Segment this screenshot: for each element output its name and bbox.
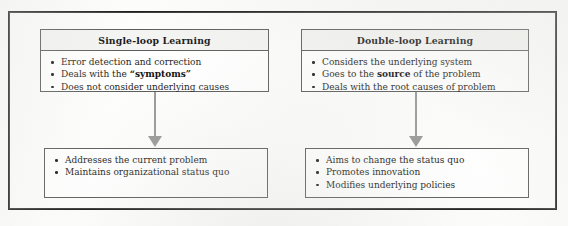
bullet-text: Promotes innovation bbox=[326, 167, 420, 177]
bullet-text-tail: of the problem bbox=[410, 69, 480, 79]
list-item: Error detection and correction bbox=[50, 56, 268, 68]
list-item: Maintains organizational status quo bbox=[54, 166, 267, 178]
list-item: Promotes innovation bbox=[315, 166, 528, 178]
list-item: Considers the underlying system bbox=[311, 56, 528, 68]
bullet-text: Addresses the current problem bbox=[65, 155, 207, 165]
list-item: Addresses the current problem bbox=[54, 154, 267, 166]
bullet-text: Considers the underlying system bbox=[322, 57, 472, 67]
bullet-text: Goes to the bbox=[322, 69, 377, 79]
single-loop-characteristics-list: Error detection and correction Deals wit… bbox=[50, 56, 268, 93]
list-item: Aims to change the status quo bbox=[315, 154, 528, 166]
double-loop-learning-card: Double-loop Learning Considers the under… bbox=[301, 29, 529, 92]
arrow-head bbox=[148, 136, 162, 147]
double-loop-characteristics-list: Considers the underlying system Goes to … bbox=[311, 56, 528, 93]
list-item: Goes to the source of the problem bbox=[311, 68, 528, 80]
bullet-text: Deals with the root causes of problem bbox=[322, 82, 496, 92]
double-loop-outcomes-list: Aims to change the status quo Promotes i… bbox=[315, 154, 528, 191]
double-loop-outcomes-body: Aims to change the status quo Promotes i… bbox=[306, 149, 528, 195]
single-loop-card-body: Error detection and correction Deals wit… bbox=[41, 51, 268, 97]
arrow-head bbox=[409, 136, 423, 147]
down-arrow-icon bbox=[148, 92, 162, 148]
bullet-text: Error detection and correction bbox=[61, 57, 201, 67]
single-loop-card-header: Single-loop Learning bbox=[41, 30, 268, 51]
double-loop-card-body: Considers the underlying system Goes to … bbox=[302, 51, 528, 97]
single-loop-outcomes-body: Addresses the current problem Maintains … bbox=[45, 149, 267, 183]
arrow-shaft bbox=[415, 92, 417, 137]
double-loop-outcomes-card: Aims to change the status quo Promotes i… bbox=[305, 148, 529, 198]
bullet-text: Does not consider underlying causes bbox=[61, 82, 229, 92]
arrow-shaft bbox=[154, 92, 156, 137]
bullet-emphasis: “symptoms” bbox=[130, 69, 191, 79]
learning-models-diagram: Single-loop Learning Error detection and… bbox=[0, 0, 568, 226]
single-loop-outcomes-card: Addresses the current problem Maintains … bbox=[44, 148, 268, 198]
bullet-emphasis: source bbox=[377, 69, 411, 79]
double-loop-title: Double-loop Learning bbox=[357, 35, 473, 46]
bullet-text: Modifies underlying policies bbox=[326, 180, 455, 190]
single-loop-title: Single-loop Learning bbox=[98, 35, 210, 46]
down-arrow-icon bbox=[409, 92, 423, 148]
bullet-text: Maintains organizational status quo bbox=[65, 167, 229, 177]
bullet-text: Aims to change the status quo bbox=[326, 155, 464, 165]
bullet-text: Deals with the bbox=[61, 69, 130, 79]
double-loop-card-header: Double-loop Learning bbox=[302, 30, 528, 51]
single-loop-outcomes-list: Addresses the current problem Maintains … bbox=[54, 154, 267, 179]
single-loop-learning-card: Single-loop Learning Error detection and… bbox=[40, 29, 269, 92]
list-item: Deals with the “symptoms” bbox=[50, 68, 268, 80]
list-item: Modifies underlying policies bbox=[315, 179, 528, 191]
